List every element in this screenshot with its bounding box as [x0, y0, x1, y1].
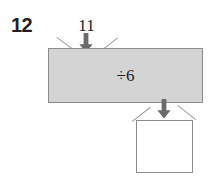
machine-input-value: 11 [0, 17, 173, 34]
output-funnel-right-line [177, 105, 196, 120]
function-machine-worksheet: 12 11 ÷6 [0, 0, 213, 178]
answer-input-box[interactable] [136, 120, 193, 173]
machine-operation-label: ÷6 [48, 66, 203, 85]
